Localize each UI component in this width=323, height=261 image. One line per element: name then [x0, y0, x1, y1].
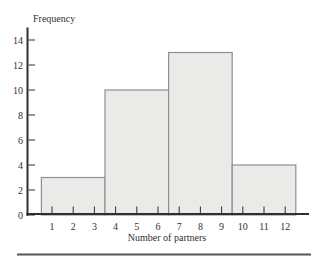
y-axis-title: Frequency	[33, 13, 75, 24]
y-tick-label: 4	[18, 160, 23, 171]
y-tick-label: 6	[18, 135, 23, 146]
x-tick-label: 7	[177, 221, 182, 232]
histogram-figure: 02468101214123456789101112 Frequency Num…	[0, 0, 323, 261]
x-tick-label: 11	[259, 221, 269, 232]
x-tick-label: 5	[134, 221, 139, 232]
x-tick-label: 4	[113, 221, 118, 232]
y-tick-label: 10	[13, 85, 23, 96]
histogram-chart: 02468101214123456789101112 Frequency Num…	[0, 0, 323, 261]
y-tick-label: 8	[18, 110, 23, 121]
x-tick-label: 3	[92, 221, 97, 232]
x-tick-label: 8	[198, 221, 203, 232]
x-tick-label: 12	[280, 221, 290, 232]
y-tick-label: 0	[18, 210, 23, 221]
bars-layer	[41, 53, 295, 216]
y-tick-label: 12	[13, 60, 23, 71]
x-tick-label: 6	[156, 221, 161, 232]
histogram-bar	[105, 90, 169, 215]
x-tick-label: 10	[238, 221, 248, 232]
x-axis-title: Number of partners	[128, 232, 206, 243]
x-tick-label: 1	[50, 221, 55, 232]
histogram-bar	[169, 53, 233, 216]
x-tick-label: 2	[71, 221, 76, 232]
y-tick-label: 2	[18, 185, 23, 196]
x-tick-label: 9	[219, 221, 224, 232]
y-tick-label: 14	[13, 35, 23, 46]
